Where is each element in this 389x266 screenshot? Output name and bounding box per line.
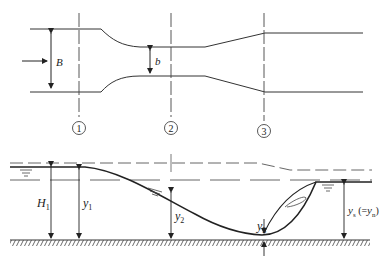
- y2-label: y2: [174, 209, 184, 225]
- water-surface-symbol-3: [322, 185, 334, 191]
- profile-view: H1 y1 y2 y3 ys (=yn): [10, 154, 379, 256]
- svg-text:3: 3: [262, 126, 267, 137]
- section-marker-3: 3: [258, 125, 271, 138]
- hydraulic-jump-roller: [264, 182, 316, 233]
- width-B-label: B: [56, 56, 63, 68]
- svg-text:1: 1: [77, 123, 82, 134]
- section-marker-1: 1: [73, 122, 86, 135]
- y3-label: y3: [256, 219, 266, 235]
- diagram-canvas: B b 1 2 3: [0, 0, 389, 266]
- plan-view: B b 1 2 3: [22, 13, 363, 138]
- water-surface-symbol-1: [20, 170, 32, 176]
- width-b-label: b: [155, 55, 161, 67]
- section-marker-2: 2: [165, 122, 178, 135]
- plan-upper-wall: [30, 29, 363, 47]
- svg-text:2: 2: [169, 123, 174, 134]
- water-surface-profile: [10, 167, 372, 235]
- plan-lower-wall: [30, 76, 363, 92]
- H1-label: H1: [36, 196, 50, 212]
- channel-bed-hatching: [10, 240, 370, 246]
- y1-label: y1: [82, 196, 92, 212]
- ys-label: ys (=yn): [347, 204, 379, 219]
